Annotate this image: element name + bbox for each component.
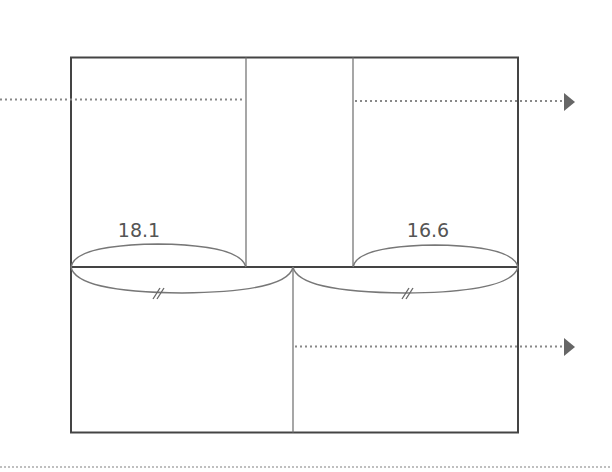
top-left-width-label: 18.1 xyxy=(118,219,160,241)
bottom-right-brace xyxy=(293,267,518,293)
bottom-right-arrowhead-icon xyxy=(564,338,575,356)
top-right-arrowhead-icon xyxy=(564,93,575,111)
top-right-width-label: 16.6 xyxy=(407,219,449,241)
top-left-brace xyxy=(71,244,246,267)
rectangle-division-diagram: 18.1 16.6 xyxy=(0,0,612,472)
bottom-left-equal-mark xyxy=(153,288,164,299)
bottom-left-brace xyxy=(71,267,293,293)
top-right-brace xyxy=(353,245,518,267)
